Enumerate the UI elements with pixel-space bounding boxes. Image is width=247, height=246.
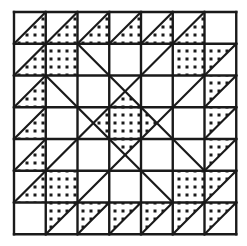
shaded-regions — [14, 12, 236, 234]
shaded-square — [173, 44, 205, 76]
shaded-square — [173, 171, 205, 203]
shaded-diamond — [93, 91, 157, 155]
shaded-square — [46, 171, 78, 203]
quilt-block-diagram: Quilt block pattern — [0, 0, 247, 246]
shaded-square — [46, 44, 78, 76]
quilt-svg — [0, 0, 247, 246]
